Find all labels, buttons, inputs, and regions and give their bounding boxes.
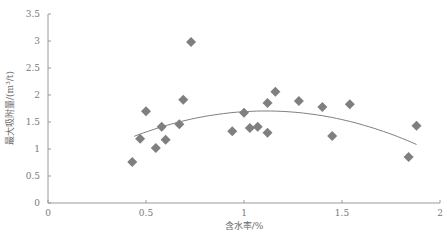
data-point-diamond (127, 157, 137, 167)
data-points (127, 37, 421, 167)
data-point-diamond (161, 135, 171, 145)
data-point-diamond (327, 131, 337, 141)
y-tick-label: 0.5 (26, 171, 41, 181)
y-tick-label: 1 (34, 144, 40, 154)
data-point-diamond (317, 102, 327, 112)
data-point-diamond (253, 122, 263, 132)
x-tick-label: 1 (241, 208, 247, 218)
data-point-diamond (404, 152, 414, 162)
data-point-diamond (151, 143, 161, 153)
data-point-diamond (270, 87, 280, 97)
data-point-diamond (294, 96, 304, 106)
data-point-diamond (141, 106, 151, 116)
x-tick-label: 1.5 (335, 208, 350, 218)
y-tick-label: 1.5 (26, 117, 41, 127)
data-point-diamond (178, 95, 188, 105)
x-axis-title: 含水率/% (225, 220, 264, 231)
data-point-diamond (239, 108, 249, 118)
x-tick-label: 0.5 (139, 208, 154, 218)
y-tick-label: 2 (34, 90, 40, 100)
y-axis: 00.511.522.533.5 (26, 9, 51, 208)
data-point-diamond (227, 126, 237, 136)
data-point-diamond (345, 99, 355, 109)
data-point-diamond (186, 37, 196, 47)
trendline (134, 111, 416, 145)
data-point-diamond (263, 98, 273, 108)
data-point-diamond (157, 122, 167, 132)
y-tick-label: 0 (34, 198, 40, 208)
data-point-diamond (411, 121, 421, 131)
y-axis-title: 最大吸附量/(m³/t) (4, 71, 15, 145)
x-tick-label: 0 (45, 208, 51, 218)
x-axis: 00.511.52 (45, 200, 443, 218)
x-tick-label: 2 (437, 208, 443, 218)
y-tick-label: 2.5 (26, 63, 41, 73)
data-point-diamond (245, 123, 255, 133)
scatter-chart: 00.511.522.533.5 00.511.52 含水率/% 最大吸附量/(… (0, 0, 447, 239)
y-tick-label: 3 (34, 36, 40, 46)
y-tick-label: 3.5 (26, 9, 41, 19)
data-point-diamond (263, 128, 273, 138)
